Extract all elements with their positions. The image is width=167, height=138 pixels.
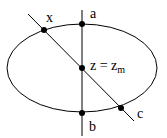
label-b: b [89, 120, 96, 134]
label-center-subscript: m [117, 64, 125, 75]
label-center: z = zm [90, 59, 125, 73]
point-b [79, 110, 85, 116]
point-center [79, 65, 85, 71]
label-a: a [90, 7, 96, 21]
point-a [79, 21, 85, 27]
ellipse-diagram: x a b c z = zm [0, 0, 167, 138]
label-c: c [137, 107, 143, 121]
point-c [118, 105, 124, 111]
label-x: x [46, 11, 53, 25]
label-center-main: z = z [90, 58, 117, 73]
point-x [41, 27, 47, 33]
